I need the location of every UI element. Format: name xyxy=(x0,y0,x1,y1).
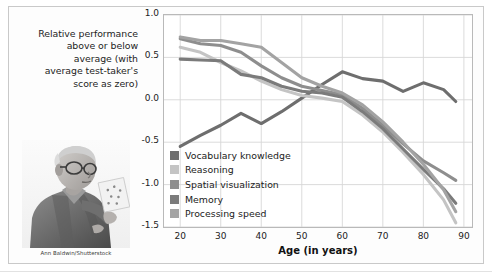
legend-swatch-icon xyxy=(170,195,179,204)
legend-item[interactable]: Vocabulary knowledge xyxy=(170,148,291,163)
y-tick-label: 0.5 xyxy=(125,50,159,60)
legend-swatch-icon xyxy=(170,165,179,174)
figure-root: Relative performance above or below aver… xyxy=(0,0,492,279)
x-tick-label: 80 xyxy=(408,231,438,241)
elderly-man-photo xyxy=(22,140,130,248)
page-edge-divider xyxy=(0,271,492,272)
legend-item-label: Processing speed xyxy=(185,208,266,219)
legend-swatch-icon xyxy=(170,209,179,218)
photo-block: Ann Baldwin/Shutterstock xyxy=(14,140,138,264)
legend-item-label: Reasoning xyxy=(185,164,234,175)
y-tick-label: -0.5 xyxy=(125,135,159,145)
y-axis-caption: Relative performance above or below aver… xyxy=(14,28,138,90)
legend-item-label: Memory xyxy=(185,194,223,205)
y-axis-caption-line: average test-taker's xyxy=(14,65,138,77)
x-tick-label: 30 xyxy=(206,231,236,241)
photo-credit: Ann Baldwin/Shutterstock xyxy=(14,250,138,256)
legend-item[interactable]: Processing speed xyxy=(170,206,291,221)
y-axis-caption-line: above or below xyxy=(14,40,138,52)
legend-item[interactable]: Reasoning xyxy=(170,163,291,178)
chart-legend: Vocabulary knowledgeReasoningSpatial vis… xyxy=(170,148,291,221)
y-axis-ticks: 1.00.50.0-0.5-1.0-1.5 xyxy=(123,14,159,228)
legend-swatch-icon xyxy=(170,180,179,189)
x-axis-label: Age (in years) xyxy=(163,245,473,256)
y-axis-caption-line: average (with xyxy=(14,53,138,65)
x-tick-label: 70 xyxy=(368,231,398,241)
y-axis-caption-line: Relative performance xyxy=(14,28,138,40)
y-tick-label: 0.0 xyxy=(125,93,159,103)
y-axis-caption-line: score as zero) xyxy=(14,78,138,90)
y-tick-label: 1.0 xyxy=(125,8,159,18)
y-tick-label: -1.5 xyxy=(125,220,159,230)
legend-item-label: Vocabulary knowledge xyxy=(185,150,291,161)
legend-item[interactable]: Memory xyxy=(170,192,291,207)
x-tick-label: 50 xyxy=(287,231,317,241)
x-tick-label: 20 xyxy=(165,231,195,241)
x-axis-ticks: 2030405060708090 xyxy=(163,231,475,245)
x-tick-label: 90 xyxy=(449,231,479,241)
photo-svg xyxy=(22,140,130,248)
x-tick-label: 40 xyxy=(246,231,276,241)
legend-item[interactable]: Spatial visualization xyxy=(170,177,291,192)
y-tick-label: -1.0 xyxy=(125,178,159,188)
x-tick-label: 60 xyxy=(327,231,357,241)
legend-item-label: Spatial visualization xyxy=(185,179,279,190)
legend-swatch-icon xyxy=(170,151,179,160)
